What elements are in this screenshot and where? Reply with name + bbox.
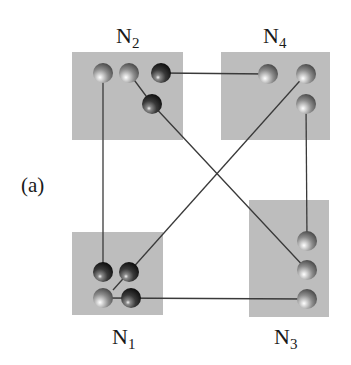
port-ball-dark-icon: [93, 262, 113, 282]
port-ball-light-icon: [258, 64, 278, 84]
node-label-n4: N4: [263, 25, 286, 51]
port-ball-dark-icon: [121, 288, 141, 308]
port-ball-dark-icon: [142, 94, 162, 114]
port-ball-light-icon: [297, 260, 317, 280]
port-ball-light-icon: [297, 231, 317, 251]
port-ball-light-icon: [297, 289, 317, 309]
node-box-n4: [221, 52, 330, 140]
node-label-base: N: [263, 23, 279, 48]
port-ball-light-icon: [296, 94, 316, 114]
node-box-n1: [72, 232, 163, 315]
panel-label: (a): [21, 175, 44, 196]
node-label-base: N: [112, 324, 128, 349]
node-label-subscript: 2: [132, 35, 140, 51]
node-label-n2: N2: [116, 25, 139, 51]
node-label-subscript: 4: [279, 35, 287, 51]
port-ball-dark-icon: [151, 63, 171, 83]
node-label-n3: N3: [274, 326, 297, 352]
port-ball-dark-icon: [119, 262, 139, 282]
node-label-base: N: [116, 23, 132, 48]
port-ball-light-icon: [296, 64, 316, 84]
port-ball-light-icon: [93, 288, 113, 308]
port-ball-light-icon: [93, 63, 113, 83]
port-ball-light-icon: [119, 63, 139, 83]
node-label-base: N: [274, 324, 290, 349]
node-label-n1: N1: [112, 326, 135, 352]
node-label-subscript: 1: [128, 336, 136, 352]
network-diagram: [0, 0, 351, 365]
node-label-subscript: 3: [290, 336, 298, 352]
